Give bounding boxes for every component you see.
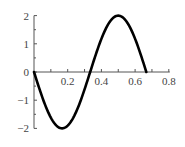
x-tick-label: 0.8 [162, 75, 176, 87]
y-tick-label: 0 [24, 66, 30, 78]
y-tick-label: 2 [24, 10, 30, 22]
x-tick-label: 0.2 [61, 75, 75, 87]
y-tick-label: −2 [17, 122, 29, 134]
axes [34, 16, 170, 129]
y-tick-label: 1 [24, 38, 30, 50]
sine-curve-chart: 210−1−20.20.40.60.8 [0, 0, 185, 147]
x-tick-label: 0.6 [128, 75, 142, 87]
x-tick-label: 0.4 [95, 75, 109, 87]
y-tick-label: −1 [17, 94, 29, 106]
